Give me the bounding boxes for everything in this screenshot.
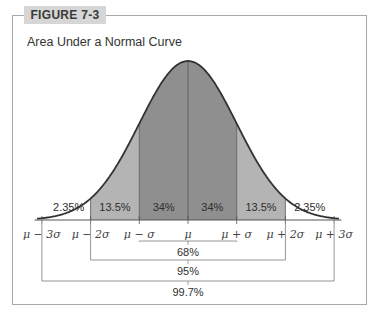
region-label: 34% <box>201 201 223 213</box>
region-label: 2.35% <box>294 201 325 213</box>
bracket-label: 99.7% <box>172 286 203 298</box>
region-label: 13.5% <box>245 201 276 213</box>
x-tick-label: μ − σ <box>124 228 155 241</box>
x-tick-label: μ <box>184 228 191 241</box>
normal-curve-chart: μ − 3σμ − 2σμ − σμμ + σμ + 2σμ + 3σ2.35%… <box>0 0 374 318</box>
region-label: 34% <box>153 201 175 213</box>
region-label: 2.35% <box>53 201 84 213</box>
region-label: 13.5% <box>99 201 130 213</box>
bracket-label: 95% <box>177 265 199 277</box>
bracket-label: 68% <box>177 246 199 258</box>
region-2 <box>139 61 188 220</box>
region-3 <box>188 61 237 220</box>
x-tick-label: μ + σ <box>221 228 252 241</box>
